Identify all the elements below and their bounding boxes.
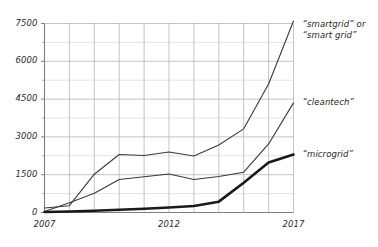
x-axis-tick-label: 2017 <box>274 219 314 229</box>
series-label-2: “cleantech” <box>303 97 354 108</box>
y-axis-tick-label: 1500 <box>0 169 38 179</box>
y-axis-tick-label: 4500 <box>0 93 38 103</box>
series-label-3: “microgrid” <box>303 149 354 160</box>
y-axis-tick-label: 0 <box>0 207 38 217</box>
series-label-1: “smartgrid” or“smart grid” <box>303 19 366 42</box>
chart-container: 750060004500300015000200720122017“smartg… <box>0 0 378 247</box>
x-axis-tick-label: 2007 <box>25 219 65 229</box>
series-label-line: “microgrid” <box>303 149 354 160</box>
series-label-line: “smartgrid” or <box>303 19 366 31</box>
y-axis-tick-label: 7500 <box>0 18 38 28</box>
series-label-line: “cleantech” <box>303 97 354 108</box>
y-axis-tick-label: 3000 <box>0 131 38 141</box>
series-label-line: “smart grid” <box>303 30 366 42</box>
y-axis-tick-label: 6000 <box>0 55 38 65</box>
x-axis-tick-label: 2012 <box>149 219 189 229</box>
